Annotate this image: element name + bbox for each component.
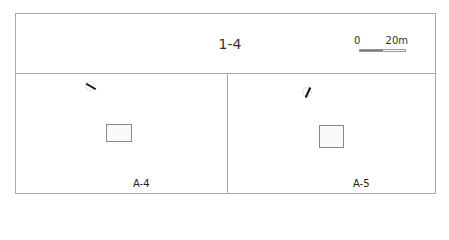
plot-outline-a5 <box>319 125 344 148</box>
scale-bar: 0 20m <box>354 35 408 57</box>
panel-divider <box>227 73 228 194</box>
scale-start-label: 0 <box>354 35 360 46</box>
sheet-title: 1-4 <box>210 36 250 52</box>
scale-end-label: 20m <box>386 35 408 46</box>
north-arrow-icon <box>302 87 312 97</box>
panel-label-a5: A-5 <box>353 178 370 189</box>
scale-bar-graphic <box>359 49 406 52</box>
north-arrow-icon <box>85 81 95 91</box>
panel-label-a4: A-4 <box>133 178 150 189</box>
plot-outline-a4 <box>106 124 132 142</box>
header-divider <box>15 73 436 74</box>
